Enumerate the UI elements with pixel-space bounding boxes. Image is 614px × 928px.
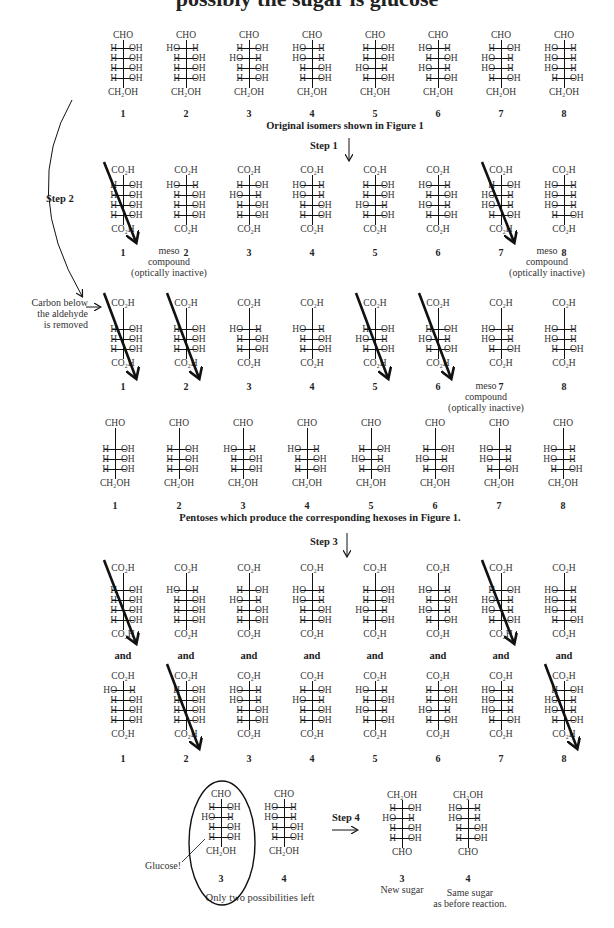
right-substituent: OH xyxy=(318,200,332,211)
top-group: CO₂H xyxy=(88,671,158,682)
right-substituent: H xyxy=(318,595,325,606)
right-substituent: H xyxy=(381,605,388,616)
right-substituent: H xyxy=(255,685,262,696)
note-line: (optically inactive) xyxy=(442,402,530,413)
right-substituent: OH xyxy=(441,464,455,475)
bond-vertical xyxy=(468,800,470,848)
right-substituent: H xyxy=(444,334,451,345)
right-substituent: OH xyxy=(318,615,332,626)
bottom-group: CH₂OH xyxy=(403,87,473,98)
top-group: CO₂H xyxy=(214,563,284,574)
right-substituent: OH xyxy=(381,695,395,706)
bond-vertical xyxy=(564,573,566,630)
right-substituent: OH xyxy=(192,63,206,74)
bottom-group: CH₂OH xyxy=(400,478,470,489)
top-group: CHO xyxy=(272,418,342,429)
right-substituent: OH xyxy=(192,705,206,716)
bottom-group: CO₂H xyxy=(529,729,599,740)
bottom-group: CO₂H xyxy=(151,358,221,369)
right-substituent: OH xyxy=(255,585,269,596)
bottom-group: CH₂OH xyxy=(88,87,158,98)
right-substituent: OH xyxy=(129,73,143,84)
right-substituent: OH xyxy=(129,210,143,221)
top-group: CO₂H xyxy=(340,165,410,176)
bottom-group: CO₂H xyxy=(466,729,536,740)
note-line: (optically inactive) xyxy=(503,267,591,278)
right-substituent: OH xyxy=(444,210,458,221)
carbon-removed-note: Carbon belowthe aldehydeis removed xyxy=(8,297,88,330)
isomer-number: 5 xyxy=(356,500,386,511)
bottom-group: CO₂H xyxy=(340,224,410,235)
bond-vertical xyxy=(312,573,314,630)
bond-vertical xyxy=(123,175,125,225)
bottom-group: CO₂H xyxy=(529,629,599,640)
bond-vertical xyxy=(564,681,566,730)
right-substituent: OH xyxy=(255,705,269,716)
right-substituent: OH xyxy=(474,833,488,844)
right-substituent: OH xyxy=(570,344,584,355)
isomer-number: 8 xyxy=(548,500,578,511)
right-substituent: OH xyxy=(255,605,269,616)
right-substituent: OH xyxy=(227,802,241,813)
meso-note-6: mesocompound(optically inactive) xyxy=(442,380,530,413)
bond-vertical xyxy=(564,40,566,88)
caption-original-isomers: Original isomers shown in Figure 1 xyxy=(145,120,545,131)
top-group: CO₂H xyxy=(466,671,536,682)
glucose-highlight-ellipse xyxy=(189,781,255,905)
right-substituent: OH xyxy=(318,705,332,716)
right-substituent: H xyxy=(570,190,577,201)
bottom-group: CH₂OH xyxy=(272,478,342,489)
right-substituent: H xyxy=(381,685,388,696)
isomer-number: 4 xyxy=(269,873,299,884)
bond-vertical xyxy=(312,308,314,359)
top-group: CO₂H xyxy=(466,563,536,574)
and-label: and xyxy=(481,650,521,661)
right-substituent: OH xyxy=(570,685,584,696)
page-title-cut: possibly the sugar is glucose xyxy=(0,0,614,12)
right-substituent: OH xyxy=(129,585,143,596)
top-group: CHO xyxy=(403,30,473,41)
caption-two-possibilities: Only two possibilities left xyxy=(190,892,330,903)
top-group: CO₂H xyxy=(529,671,599,682)
bond-vertical xyxy=(375,308,377,359)
isomer-number: 3 xyxy=(234,108,264,119)
right-substituent: H xyxy=(255,695,262,706)
right-substituent: H xyxy=(192,43,199,54)
right-substituent: H xyxy=(569,454,576,465)
right-substituent: OH xyxy=(192,210,206,221)
bottom-group: CHO xyxy=(433,847,503,858)
right-substituent: OH xyxy=(381,344,395,355)
right-substituent: OH xyxy=(318,605,332,616)
bottom-group: CH₂OH xyxy=(466,87,536,98)
right-substituent: OH xyxy=(474,823,488,834)
isomer-number: 7 xyxy=(486,108,516,119)
right-substituent: H xyxy=(507,63,514,74)
right-substituent: OH xyxy=(192,334,206,345)
bond-vertical xyxy=(179,428,181,479)
top-group: CO₂H xyxy=(88,298,158,309)
right-substituent: OH xyxy=(408,803,422,814)
top-group: CO₂H xyxy=(466,298,536,309)
top-group: CHO xyxy=(340,30,410,41)
right-substituent: OH xyxy=(569,464,583,475)
right-substituent: OH xyxy=(129,53,143,64)
bottom-group: CO₂H xyxy=(403,629,473,640)
right-substituent: OH xyxy=(444,53,458,64)
bottom-group: CO₂H xyxy=(403,358,473,369)
right-substituent: H xyxy=(507,200,514,211)
right-substituent: H xyxy=(318,53,325,64)
top-group: CHO xyxy=(466,30,536,41)
isomer-number: 5 xyxy=(360,247,390,258)
right-substituent: OH xyxy=(129,615,143,626)
right-substituent: H xyxy=(507,695,514,706)
right-substituent: H xyxy=(474,813,481,824)
right-substituent: H xyxy=(444,200,451,211)
right-substituent: OH xyxy=(318,73,332,84)
right-substituent: OH xyxy=(255,200,269,211)
right-substituent: H xyxy=(381,705,388,716)
right-substituent: OH xyxy=(444,595,458,606)
top-group: CHO xyxy=(186,789,256,800)
right-substituent: OH xyxy=(129,43,143,54)
isomer-number: 8 xyxy=(549,381,579,392)
right-substituent: H xyxy=(507,595,514,606)
